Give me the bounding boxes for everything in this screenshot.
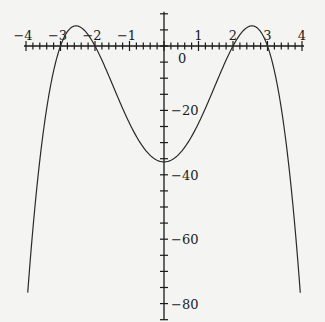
x-tick-label: 4: [298, 28, 306, 43]
y-tick-label: −40: [171, 168, 198, 183]
y-axis: [160, 12, 168, 320]
y-tick-label: −80: [171, 297, 198, 312]
y-tick-label: −60: [171, 232, 198, 247]
x-tick-label: −3: [48, 28, 67, 43]
x-tick-label: 1: [194, 28, 202, 43]
x-tick-label: 3: [263, 28, 271, 43]
origin-label: 0: [178, 51, 186, 66]
y-tick-label: −20: [171, 103, 198, 118]
function-plot: −4−3−2−11234 −20−40−60−80 0: [0, 0, 325, 322]
y-tick-labels: −20−40−60−80: [171, 103, 198, 311]
x-tick-label: −1: [117, 28, 136, 43]
x-tick-labels: −4−3−2−11234: [13, 28, 306, 43]
x-tick-label: −4: [13, 28, 32, 43]
